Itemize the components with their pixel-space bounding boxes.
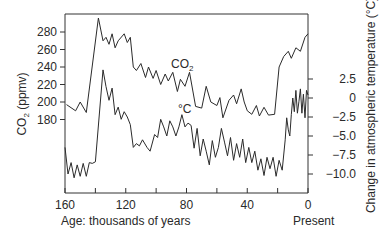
left-tick-label: 280 [37, 25, 57, 39]
x-tick-label: 120 [116, 198, 136, 212]
left-axis-ticks: 280260240220200180 [37, 25, 65, 127]
x-axis-tick-labels: 16012080400 [55, 198, 312, 212]
left-axis-title: CO2 (ppmv) [15, 72, 31, 135]
right-tick-label: 0 [349, 91, 356, 105]
left-tick-label: 240 [37, 60, 57, 74]
x-axis-title: Age: thousands of years [61, 214, 190, 228]
co2-series-label: CO2 [171, 57, 194, 73]
right-tick-label: −10.0 [326, 167, 357, 181]
right-tick-label: −7.5 [332, 148, 356, 162]
temperature-series-line [65, 70, 308, 178]
x-tick-label: 40 [241, 198, 255, 212]
x-tick-label: 160 [55, 198, 75, 212]
left-tick-label: 200 [37, 95, 57, 109]
x-axis-end-label: Present [293, 214, 335, 228]
co2-temperature-chart: 16012080400 280260240220200180 2.50−2.5−… [0, 0, 382, 242]
x-tick-label: 80 [180, 198, 194, 212]
temperature-series-label: °C [178, 102, 192, 116]
x-axis-ticks [65, 188, 308, 193]
right-tick-label: −2.5 [332, 110, 356, 124]
right-tick-label: 2.5 [339, 72, 356, 86]
left-tick-label: 180 [37, 113, 57, 127]
left-tick-label: 260 [37, 43, 57, 57]
left-tick-label: 220 [37, 78, 57, 92]
right-tick-label: −5.0 [332, 129, 356, 143]
x-tick-label: 0 [305, 198, 312, 212]
right-axis-ticks: 2.50−2.5−5.0−7.5−10.0 [308, 72, 356, 181]
right-axis-title: Change in atmospheric temperature (°C) [364, 0, 378, 213]
